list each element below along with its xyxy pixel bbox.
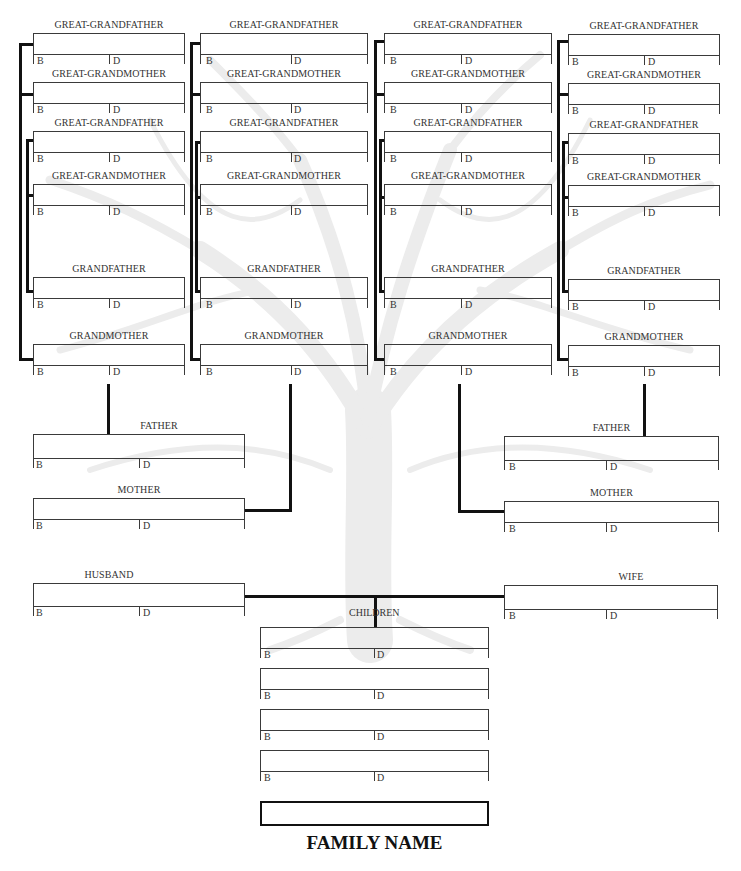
died-field[interactable]: D [648, 155, 655, 166]
died-field[interactable]: D [465, 299, 472, 310]
name-field[interactable] [200, 33, 368, 55]
name-field[interactable] [568, 34, 720, 56]
born-field[interactable]: B [37, 299, 44, 310]
name-field[interactable] [33, 184, 185, 206]
born-field[interactable]: B [264, 731, 271, 742]
name-field[interactable] [384, 277, 552, 299]
born-field[interactable]: B [390, 366, 397, 377]
died-field[interactable]: D [465, 153, 472, 164]
died-field[interactable]: D [648, 207, 655, 218]
name-field[interactable] [200, 184, 368, 206]
name-field[interactable] [33, 434, 245, 459]
name-field[interactable] [504, 585, 718, 610]
died-field[interactable]: D [294, 366, 301, 377]
born-field[interactable]: B [390, 206, 397, 217]
born-field[interactable]: B [37, 104, 44, 115]
born-field[interactable]: B [37, 153, 44, 164]
name-field[interactable] [260, 668, 489, 690]
died-field[interactable]: D [465, 206, 472, 217]
died-field[interactable]: D [377, 772, 384, 783]
died-field[interactable]: D [648, 301, 655, 312]
name-field[interactable] [504, 501, 719, 523]
died-field[interactable]: D [465, 55, 472, 66]
died-field[interactable]: D [143, 607, 150, 618]
born-field[interactable]: B [572, 155, 579, 166]
died-field[interactable]: D [294, 206, 301, 217]
born-field[interactable]: B [509, 523, 516, 534]
name-field[interactable] [200, 277, 368, 299]
died-field[interactable]: D [113, 104, 120, 115]
died-field[interactable]: D [648, 56, 655, 67]
died-field[interactable]: D [113, 206, 120, 217]
died-field[interactable]: D [648, 367, 655, 378]
born-field[interactable]: B [206, 55, 213, 66]
died-field[interactable]: D [610, 461, 617, 472]
name-field[interactable] [33, 33, 185, 55]
name-field[interactable] [200, 344, 368, 366]
died-field[interactable]: D [377, 690, 384, 701]
died-field[interactable]: D [143, 520, 150, 531]
name-field[interactable] [568, 345, 720, 367]
born-field[interactable]: B [264, 690, 271, 701]
name-field[interactable] [568, 83, 720, 105]
died-field[interactable]: D [294, 299, 301, 310]
died-field[interactable]: D [377, 731, 384, 742]
family-name-field[interactable] [260, 801, 489, 826]
born-field[interactable]: B [390, 299, 397, 310]
died-field[interactable]: D [113, 153, 120, 164]
name-field[interactable] [504, 436, 719, 461]
born-field[interactable]: B [509, 461, 516, 472]
name-field[interactable] [33, 583, 245, 607]
born-field[interactable]: B [572, 105, 579, 116]
born-field[interactable]: B [390, 104, 397, 115]
born-field[interactable]: B [509, 610, 516, 621]
name-field[interactable] [33, 277, 185, 299]
name-field[interactable] [33, 498, 245, 520]
born-field[interactable]: B [36, 607, 43, 618]
born-field[interactable]: B [572, 56, 579, 67]
died-field[interactable]: D [143, 459, 150, 470]
born-field[interactable]: B [572, 207, 579, 218]
died-field[interactable]: D [294, 55, 301, 66]
born-field[interactable]: B [36, 520, 43, 531]
name-field[interactable] [384, 184, 552, 206]
died-field[interactable]: D [377, 649, 384, 660]
died-field[interactable]: D [113, 55, 120, 66]
died-field[interactable]: D [610, 523, 617, 534]
died-field[interactable]: D [465, 366, 472, 377]
died-field[interactable]: D [294, 104, 301, 115]
name-field[interactable] [568, 185, 720, 207]
died-field[interactable]: D [610, 610, 617, 621]
name-field[interactable] [33, 131, 185, 153]
born-field[interactable]: B [37, 366, 44, 377]
name-field[interactable] [384, 344, 552, 366]
died-field[interactable]: D [113, 299, 120, 310]
born-field[interactable]: B [37, 55, 44, 66]
died-field[interactable]: D [648, 105, 655, 116]
born-field[interactable]: B [206, 366, 213, 377]
name-field[interactable] [260, 709, 489, 731]
died-field[interactable]: D [465, 104, 472, 115]
died-field[interactable]: D [294, 153, 301, 164]
died-field[interactable]: D [113, 366, 120, 377]
born-field[interactable]: B [572, 367, 579, 378]
born-field[interactable]: B [206, 153, 213, 164]
born-field[interactable]: B [36, 459, 43, 470]
born-field[interactable]: B [37, 206, 44, 217]
born-field[interactable]: B [264, 649, 271, 660]
born-field[interactable]: B [572, 301, 579, 312]
name-field[interactable] [568, 279, 720, 301]
born-field[interactable]: B [206, 104, 213, 115]
name-field[interactable] [33, 82, 185, 104]
born-field[interactable]: B [390, 153, 397, 164]
name-field[interactable] [384, 131, 552, 153]
born-field[interactable]: B [264, 772, 271, 783]
name-field[interactable] [33, 344, 185, 366]
name-field[interactable] [568, 133, 720, 155]
name-field[interactable] [384, 82, 552, 104]
name-field[interactable] [200, 131, 368, 153]
born-field[interactable]: B [206, 206, 213, 217]
born-field[interactable]: B [390, 55, 397, 66]
born-field[interactable]: B [206, 299, 213, 310]
name-field[interactable] [260, 750, 489, 772]
